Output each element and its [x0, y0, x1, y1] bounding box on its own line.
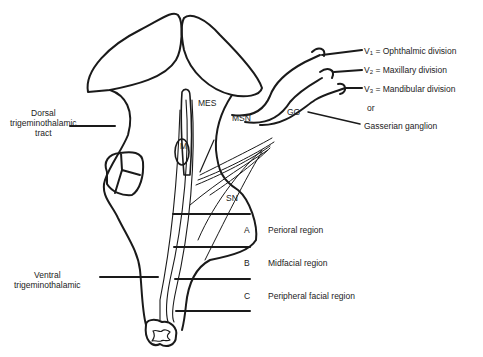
dorsal-line-1: Dorsal [10, 108, 77, 118]
v3-text: = Mandibular division [373, 84, 455, 94]
region-c-name: Peripheral facial region [268, 291, 355, 301]
v1-leader [322, 50, 362, 55]
v2-leader [334, 70, 362, 72]
m-label: M [180, 141, 187, 151]
msn-pointer [200, 140, 214, 172]
region-a-letter: A [244, 225, 250, 235]
division-v1: V1 = Ophthalmic division [364, 46, 456, 58]
sn-label: SN [226, 193, 238, 203]
gg-leader [308, 112, 360, 124]
spinal-cord-section [146, 320, 177, 346]
left-upper-lobe [88, 14, 182, 92]
left-peduncle-lobes [106, 152, 144, 195]
msn-label: MSN [232, 113, 251, 123]
region-b-name: Midfacial region [268, 258, 328, 268]
right-upper-lobe [182, 16, 262, 97]
region-a-name: Perioral region [268, 225, 323, 235]
region-b-letter: B [244, 258, 250, 268]
ventral-line-1: Ventral [14, 270, 81, 280]
region-c-letter: C [244, 291, 250, 301]
dorsal-line-3: tract [10, 128, 77, 138]
or-label: or [367, 103, 375, 113]
v1-text: = Ophthalmic division [373, 46, 456, 56]
v2-text: = Maxillary division [373, 65, 447, 75]
dorsal-line-2: trigeminothalamic [10, 118, 77, 128]
ganglion-label: Gasserian ganglion [364, 121, 437, 131]
division-v2: V2 = Maxillary division [364, 65, 447, 77]
gg-label: GG [287, 107, 300, 117]
spinal-grey-matter [152, 330, 170, 341]
ventral-line-2: trigeminothalamic [14, 280, 81, 290]
division-v3: V3 = Mandibular division [364, 84, 455, 96]
dorsal-tract-label: Dorsal trigeminothalamic tract [10, 108, 77, 138]
mes-label: MES [198, 98, 216, 108]
ventral-tract-label: Ventral trigeminothalamic [14, 270, 81, 290]
